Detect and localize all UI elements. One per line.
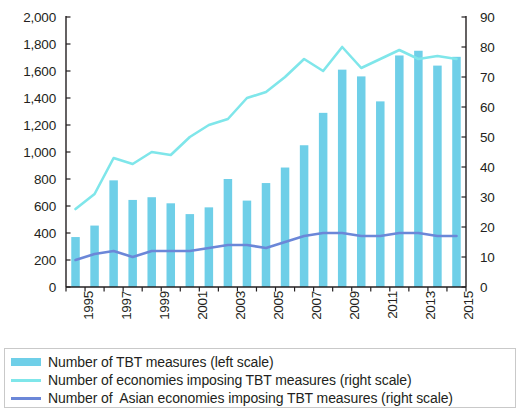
x-axis-tick-label-2015: 2015: [462, 291, 476, 320]
bar-2003: [224, 179, 233, 287]
y-axis-left-tick-label: 1,400: [4, 92, 56, 106]
x-axis-tick-label-2003: 2003: [234, 291, 248, 320]
legend-line-dark-swatch-icon: [11, 397, 41, 400]
x-axis-tick-label-1999: 1999: [158, 291, 172, 320]
y-axis-right-tick-label: 30: [480, 191, 514, 205]
y-axis-right-tick-label: 40: [480, 161, 514, 175]
bar-2007: [300, 145, 309, 287]
bar-2013: [414, 51, 423, 287]
y-axis-left-tick-label: 1,000: [4, 146, 56, 160]
x-axis-tick-label-2009: 2009: [348, 291, 362, 320]
y-axis-right-tick-label: 20: [480, 221, 514, 235]
y-axis-right-tick-label: 70: [480, 71, 514, 85]
legend-label: Number of Asian economies imposing TBT m…: [48, 390, 453, 406]
y-axis-left-tick-label: 1,200: [4, 119, 56, 133]
bar-2012: [395, 55, 404, 287]
bar-series: [71, 51, 460, 287]
y-axis-left-tick-label: 400: [4, 227, 56, 241]
y-axis-right-tick-label: 90: [480, 11, 514, 25]
chart-container: 02004006008001,0001,2001,4001,6001,8002,…: [0, 0, 520, 412]
x-axis-tick-label-2001: 2001: [196, 291, 210, 320]
bar-2006: [281, 168, 290, 287]
bar-2015: [452, 57, 461, 287]
y-axis-left-tick-label: 800: [4, 173, 56, 187]
bar-2010: [357, 76, 366, 287]
bar-2011: [376, 101, 385, 287]
y-axis-right-tick-label: 80: [480, 41, 514, 55]
x-axis-tick-label-2005: 2005: [272, 291, 286, 320]
x-axis-tick-label-1995: 1995: [82, 291, 96, 320]
chart-svg: [0, 0, 520, 300]
bar-1998: [128, 200, 137, 287]
legend-label: Number of economies imposing TBT measure…: [48, 372, 412, 388]
bar-2000: [167, 203, 176, 287]
legend-bar-swatch-icon: [11, 358, 41, 366]
x-axis-tick-label-2011: 2011: [386, 291, 400, 319]
legend-item-asian-economies: Number of Asian economies imposing TBT m…: [11, 389, 509, 407]
bar-2008: [319, 113, 328, 287]
y-axis-left-tick-label: 2,000: [4, 11, 56, 25]
legend-item-economies: Number of economies imposing TBT measure…: [11, 371, 509, 389]
bar-2009: [338, 70, 347, 287]
y-axis-left-tick-label: 1,600: [4, 65, 56, 79]
y-axis-left-tick-label: 1,800: [4, 38, 56, 52]
x-axis-tick-label-2013: 2013: [424, 291, 438, 320]
bar-1995: [71, 237, 80, 287]
plot-area: 02004006008001,0001,2001,4001,6001,8002,…: [0, 0, 520, 300]
bar-1997: [109, 180, 118, 287]
bar-2014: [433, 66, 442, 287]
y-axis-left-tick-label: 600: [4, 200, 56, 214]
y-axis-right-tick-label: 50: [480, 131, 514, 145]
y-axis-right-tick-label: 60: [480, 101, 514, 115]
x-axis-labels: 1995199719992001200320052007200920112013…: [0, 287, 520, 347]
y-axis-left-tick-label: 200: [4, 254, 56, 268]
y-axis-right-tick-label: 10: [480, 251, 514, 265]
legend-label: Number of TBT measures (left scale): [48, 354, 274, 370]
x-axis-tick-label-1997: 1997: [120, 291, 134, 320]
x-axis-tick-label-2007: 2007: [310, 291, 324, 320]
legend-item-tbt-measures: Number of TBT measures (left scale): [11, 353, 509, 371]
chart-legend: Number of TBT measures (left scale) Numb…: [4, 348, 516, 408]
bar-2005: [262, 183, 271, 287]
bar-1999: [147, 197, 156, 287]
legend-line-swatch-icon: [11, 379, 41, 382]
